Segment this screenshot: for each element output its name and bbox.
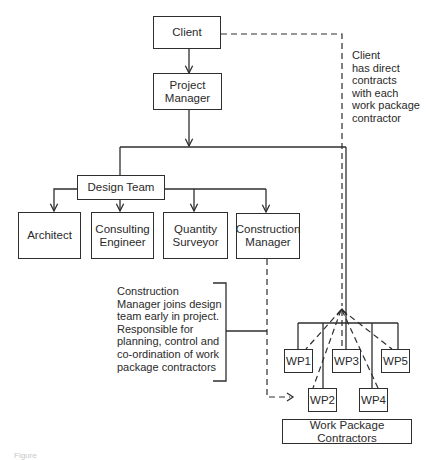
- node-label: Design Team: [88, 181, 155, 194]
- node-project-manager: Project Manager: [153, 73, 222, 110]
- node-label: Client: [172, 26, 201, 39]
- cm-dashed-line: [267, 259, 290, 397]
- node-wp3: WP3: [332, 349, 361, 373]
- node-label: WP5: [383, 355, 408, 368]
- node-label: Project Manager: [165, 79, 210, 105]
- node-label: Quantity Surveyor: [172, 223, 218, 249]
- note-construction-manager-role: Construction Manager joins design team e…: [117, 285, 222, 373]
- note-client-contracts: Client has direct contracts with each wo…: [352, 49, 420, 125]
- node-wp5: WP5: [381, 349, 410, 373]
- node-architect: Architect: [18, 212, 81, 259]
- node-label: Architect: [27, 229, 72, 242]
- node-work-package-contractors: Work Package Contractors: [282, 419, 412, 444]
- node-label: Construction Manager: [236, 223, 301, 249]
- figure-caption: Figure: [14, 451, 37, 460]
- node-construction-manager: Construction Manager: [236, 213, 300, 259]
- node-client: Client: [153, 16, 221, 49]
- dt-to-architect-arrow: [54, 189, 77, 211]
- node-wp2: WP2: [308, 388, 337, 412]
- node-label: Work Package Contractors: [283, 419, 411, 445]
- client-dashed-line: [221, 34, 342, 306]
- node-quantity-surveyor: Quantity Surveyor: [163, 212, 228, 259]
- node-label: WP2: [310, 394, 335, 407]
- node-label: WP3: [334, 355, 359, 368]
- node-label: WP1: [286, 355, 311, 368]
- node-label: Consulting Engineer: [95, 223, 149, 249]
- node-label: WP4: [361, 394, 386, 407]
- node-wp1: WP1: [284, 349, 313, 373]
- node-consulting-engineer: Consulting Engineer: [91, 212, 154, 259]
- node-wp4: WP4: [359, 388, 388, 412]
- node-design-team: Design Team: [77, 175, 165, 200]
